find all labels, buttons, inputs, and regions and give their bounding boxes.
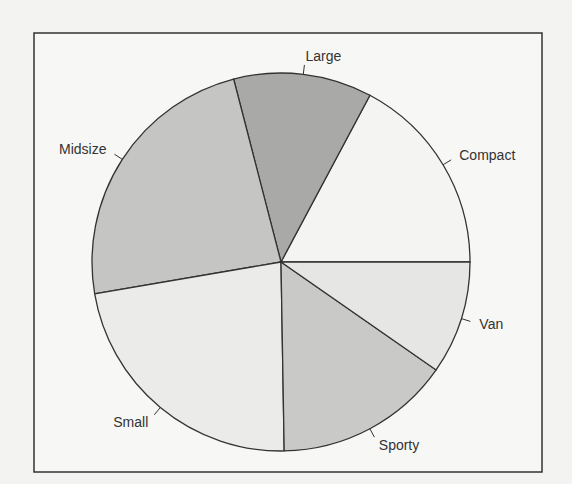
pie-chart: CompactLargeMidsizeSmallSportyVan [0, 0, 572, 484]
slice-label-compact: Compact [459, 147, 515, 163]
slice-label-midsize: Midsize [59, 141, 107, 157]
slice-label-small: Small [113, 414, 148, 430]
slice-label-large: Large [306, 48, 342, 64]
pie-slices [92, 73, 470, 451]
slice-label-van: Van [479, 316, 503, 332]
slice-label-sporty: Sporty [379, 437, 419, 453]
